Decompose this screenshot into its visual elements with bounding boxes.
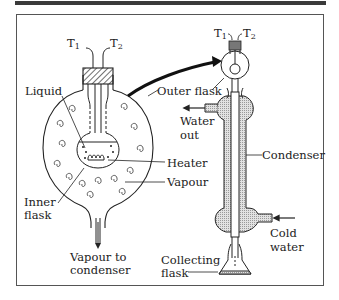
- label-outer-flask: Outer flask: [157, 84, 222, 98]
- label-cold-water-2: water: [270, 240, 304, 254]
- stopper-right: [229, 41, 241, 50]
- label-t1-right: T1: [214, 26, 227, 44]
- label-water-out-2: out: [180, 128, 199, 142]
- label-t2-left: T2: [110, 36, 123, 54]
- condenser-jacket: [215, 96, 272, 232]
- label-t2-right: T2: [243, 26, 256, 44]
- label-inner-flask-1: Inner: [24, 195, 56, 209]
- label-inner-flask-2: flask: [24, 208, 51, 222]
- label-condenser: Condenser: [262, 148, 325, 162]
- label-collecting-2: flask: [161, 266, 188, 280]
- label-vapour: Vapour: [167, 175, 208, 189]
- label-water-out-1: Water: [180, 114, 215, 128]
- label-vapour-to-2: condenser: [70, 263, 131, 277]
- label-liquid: Liquid: [25, 84, 62, 98]
- label-collecting-1: Collecting: [161, 253, 220, 267]
- label-heater: Heater: [167, 156, 208, 170]
- label-vapour-to-1: Vapour to: [70, 250, 127, 264]
- label-t1-left: T1: [67, 36, 80, 54]
- label-cold-water-1: Cold: [270, 226, 297, 240]
- stopper-left: [83, 68, 113, 84]
